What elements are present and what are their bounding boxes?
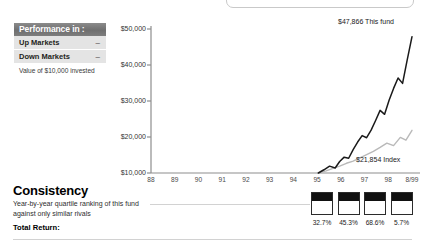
quartile-fill	[339, 193, 359, 201]
quartile-box	[364, 192, 386, 215]
quartile-fill	[365, 193, 385, 201]
quartile-percent: 68.6%	[364, 219, 386, 226]
total-return-label: Total Return:	[13, 223, 213, 232]
quartile-percent: 5.7%	[391, 219, 413, 226]
quartile-cell: 45.3%	[338, 192, 360, 226]
quartile-box	[391, 192, 413, 215]
index-value-annotation: $21,854 Index	[356, 156, 400, 163]
fund-value-annotation: $47,866 This fund	[338, 18, 394, 25]
y-axis-tick-label: $20,000	[108, 133, 146, 140]
y-axis-tick-label: $40,000	[108, 61, 146, 68]
quartile-ranking-row: 32.7%45.3%68.6%5.7%	[311, 192, 413, 226]
quartile-fill	[312, 193, 332, 201]
consistency-subtitle: Year-by-year quartile ranking of this fu…	[13, 199, 163, 218]
section-divider-middle	[150, 204, 310, 205]
section-divider-bottom	[13, 239, 412, 240]
quartile-fill	[392, 193, 412, 201]
quartile-cell: 32.7%	[311, 192, 333, 226]
quartile-cell: 68.6%	[364, 192, 386, 226]
y-axis-tick-label: $50,000	[108, 25, 146, 32]
quartile-percent: 45.3%	[338, 219, 360, 226]
quartile-percent: 32.7%	[311, 219, 333, 226]
consistency-section: Consistency Year-by-year quartile rankin…	[13, 184, 213, 232]
quartile-box	[338, 192, 360, 215]
consistency-title: Consistency	[13, 184, 213, 198]
y-axis-tick-label: $30,000	[108, 97, 146, 104]
quartile-box	[311, 192, 333, 215]
quartile-cell: 5.7%	[391, 192, 413, 226]
x-axis-tick-label: 8/99	[398, 176, 422, 183]
y-axis-tick-label: $10,000	[108, 169, 146, 176]
